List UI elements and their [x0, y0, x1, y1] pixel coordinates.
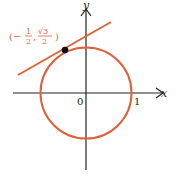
origin-label: 0: [77, 96, 83, 107]
unit-circle-diagram: x y 0 1 (− 1 2 , √3 2 ): [0, 0, 179, 178]
svg-text:2: 2: [26, 37, 31, 46]
y-axis-label: y: [82, 0, 90, 12]
svg-text:,: ,: [33, 31, 36, 42]
svg-text:(−: (−: [9, 31, 21, 42]
x-axis-label: x: [161, 87, 168, 100]
point-label: (− 1 2 , √3 2 ): [9, 27, 59, 46]
svg-text:): ): [55, 31, 59, 42]
tick-label-1: 1: [134, 96, 140, 107]
svg-text:1: 1: [26, 27, 31, 36]
svg-text:√3: √3: [38, 27, 48, 36]
tangent-point: [62, 47, 69, 54]
svg-text:2: 2: [42, 37, 47, 46]
